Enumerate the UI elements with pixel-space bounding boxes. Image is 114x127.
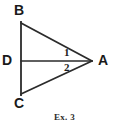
geometry-figure: B D C A 1 2 Ex. 3	[0, 0, 114, 127]
vertex-label-d: D	[2, 53, 12, 67]
angle-label-2: 2	[64, 62, 70, 73]
segment-ca	[21, 61, 92, 94]
vertex-label-c: C	[14, 96, 24, 110]
vertex-label-a: A	[98, 53, 108, 67]
segment-ba	[21, 23, 92, 61]
figure-caption: Ex. 3	[54, 112, 75, 122]
angle-label-1: 1	[64, 47, 70, 58]
vertex-label-b: B	[14, 3, 24, 17]
